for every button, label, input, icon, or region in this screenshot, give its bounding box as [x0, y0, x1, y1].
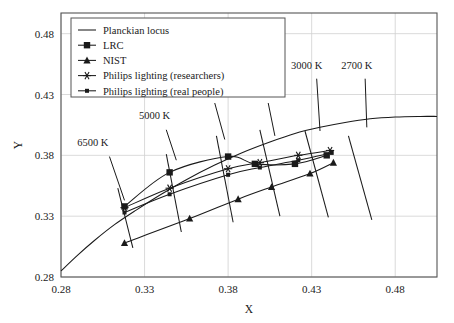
marker-small-square-legend-4 — [85, 89, 89, 93]
legend-label-3: Philips lighting (researchers) — [103, 70, 225, 82]
legend: Planckian locusLRCNISTPhilips lighting (… — [71, 18, 285, 98]
marker-small-square-philips-lighting-real-people-2 — [226, 173, 230, 177]
chromaticity-chart: 0.280.330.380.430.480.280.330.380.430.48… — [0, 0, 454, 323]
x-tick-label-2: 0.38 — [218, 283, 238, 295]
legend-label-0: Planckian locus — [103, 25, 169, 36]
x-axis-title: X — [245, 303, 254, 315]
marker-small-square-philips-lighting-real-people-5 — [330, 151, 334, 155]
marker-square-legend-1 — [84, 42, 90, 48]
marker-small-square-philips-lighting-real-people-3 — [258, 166, 262, 170]
marker-small-square-philips-lighting-real-people-4 — [296, 158, 300, 162]
legend-label-1: LRC — [103, 40, 123, 51]
chart-canvas: 0.280.330.380.430.480.280.330.380.430.48… — [0, 0, 454, 323]
marker-small-square-philips-lighting-real-people-0 — [123, 211, 127, 215]
marker-square-lrc-1 — [166, 169, 172, 175]
x-tick-label-3: 0.43 — [302, 283, 322, 295]
x-tick-label-1: 0.33 — [135, 283, 155, 295]
y-tick-label-4: 0.48 — [35, 28, 55, 40]
annotation-6500-k-label: 6500 K — [77, 137, 109, 148]
annotation-5000-k-label: 5000 K — [139, 110, 171, 121]
legend-label-2: NIST — [103, 55, 127, 66]
y-tick-label-3: 0.43 — [35, 89, 55, 101]
marker-small-square-philips-lighting-real-people-1 — [168, 192, 172, 196]
marker-square-lrc-2 — [225, 153, 231, 159]
y-tick-label-1: 0.33 — [35, 210, 55, 222]
y-tick-label-0: 0.28 — [35, 271, 55, 283]
x-tick-label-4: 0.48 — [386, 283, 406, 295]
y-tick-label-2: 0.38 — [35, 149, 55, 161]
legend-label-4: Philips lighting (real people) — [103, 86, 224, 98]
y-axis-title: Y — [12, 140, 24, 149]
x-tick-label-0: 0.28 — [51, 283, 71, 295]
annotation-3000-k-label: 3000 K — [291, 60, 323, 71]
annotation-2700-k-label: 2700 K — [341, 60, 373, 71]
